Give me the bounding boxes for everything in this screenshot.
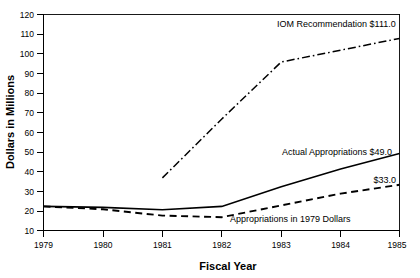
annotation-constant-dollars-value: $33.0 [373,175,396,185]
annotation-appropriations-1979-dollars: Appropriations in 1979 Dollars [230,214,351,224]
plot-frame [44,14,401,231]
y-axis-tick-labels: 120 110 100 90 80 70 60 50 40 30 20 10 [20,10,34,236]
y-tick-label-90: 90 [25,69,35,79]
series-line-actual-appropriations [44,153,400,209]
y-tick-label-120: 120 [20,10,34,20]
y-tick-label-80: 80 [25,88,35,98]
x-axis-tick-labels: 1979 1980 1981 1982 1983 1984 1985 [34,240,407,250]
x-tick-label-1981: 1981 [153,240,172,250]
x-tick-label-1982: 1982 [212,240,231,250]
x-tick-label-1979: 1979 [34,240,53,250]
y-axis-ticks [37,15,44,231]
line-chart-figure: 120 110 100 90 80 70 60 50 40 30 20 10 1… [0,0,420,278]
x-axis-ticks [44,231,400,238]
x-tick-label-1985: 1985 [388,240,407,250]
y-tick-label-100: 100 [20,49,34,59]
x-tick-label-1980: 1980 [94,240,113,250]
y-tick-label-40: 40 [25,167,35,177]
chart-canvas: 120 110 100 90 80 70 60 50 40 30 20 10 1… [0,0,420,278]
annotation-actual-appropriations: Actual Appropriations $49.0 [282,147,392,157]
x-tick-label-1984: 1984 [331,240,350,250]
y-tick-label-110: 110 [20,29,34,39]
y-tick-label-50: 50 [25,147,35,157]
y-tick-label-60: 60 [25,128,35,138]
x-axis-title: Fiscal Year [199,260,257,272]
annotation-iom-recommendation: IOM Recommendation $111.0 [277,19,396,29]
y-tick-label-10: 10 [25,226,35,236]
series-line-appropriations-1979-dollars [44,185,400,217]
y-tick-label-70: 70 [25,108,35,118]
y-tick-label-20: 20 [25,206,35,216]
y-tick-label-30: 30 [25,187,35,197]
x-tick-label-1983: 1983 [272,240,291,250]
y-axis-title: Dollars in Millions [4,75,16,169]
